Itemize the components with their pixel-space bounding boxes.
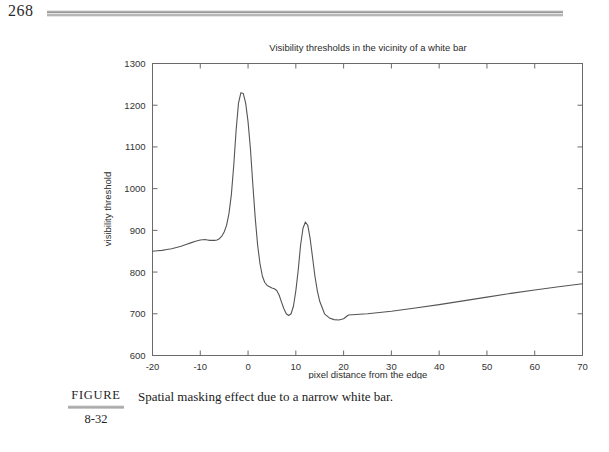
x-axis-title: pixel distance from the edge: [309, 369, 428, 379]
figure-tag-rule: [68, 405, 124, 409]
figure-label-word: FIGURE: [60, 388, 132, 403]
y-tick-label: 700: [130, 308, 146, 319]
y-tick-label: 1300: [124, 58, 145, 69]
x-axis-ticks: -20-10010203040506070: [146, 64, 588, 372]
data-curve: [153, 93, 583, 320]
y-tick-label: 1200: [124, 100, 145, 111]
figure-caption-text: Spatial masking effect due to a narrow w…: [138, 389, 393, 405]
x-tick-label: 60: [529, 361, 540, 372]
x-tick-label: 10: [291, 361, 302, 372]
page-header: 268: [0, 0, 609, 34]
y-tick-label: 900: [130, 225, 146, 236]
plot-frame: [153, 64, 583, 356]
x-tick-label: 40: [434, 361, 445, 372]
visibility-threshold-line-chart: Visibility thresholds in the vicinity of…: [0, 34, 609, 379]
x-tick-label: -20: [146, 361, 160, 372]
header-divider-rule: [47, 10, 563, 17]
figure-chart-container: Visibility thresholds in the vicinity of…: [0, 34, 609, 379]
y-axis-ticks: 6007008009001000110012001300: [124, 58, 582, 361]
data-series-group: [153, 93, 583, 320]
x-tick-label: 0: [245, 361, 250, 372]
x-tick-label: 50: [482, 361, 493, 372]
y-tick-label: 1000: [124, 183, 145, 194]
figure-caption-block: FIGURE 8-32 Spatial masking effect due t…: [0, 388, 609, 438]
page-number: 268: [8, 2, 34, 20]
x-tick-label: -10: [193, 361, 207, 372]
figure-tag: FIGURE 8-32: [60, 388, 132, 427]
y-tick-label: 1100: [125, 141, 145, 152]
figure-number: 8-32: [60, 412, 132, 427]
y-axis-title: visibility threshold: [102, 172, 113, 246]
x-tick-label: 70: [577, 361, 588, 372]
y-tick-label: 600: [130, 350, 146, 361]
chart-title: Visibility thresholds in the vicinity of…: [269, 42, 466, 53]
y-tick-label: 800: [130, 267, 146, 278]
